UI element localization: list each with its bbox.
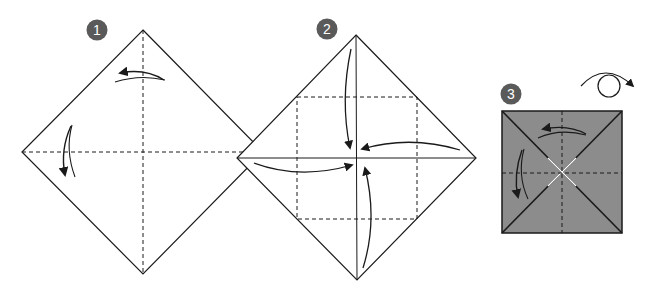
step-1: 1 — [22, 20, 263, 275]
step-3: 3 — [501, 73, 634, 233]
origami-diagram: 1 2 3 — [0, 0, 659, 303]
step-badge: 3 — [501, 84, 522, 105]
step-2: 2 — [237, 19, 476, 281]
svg-text:1: 1 — [93, 22, 101, 38]
turn-over-icon — [581, 73, 633, 97]
step-badge: 2 — [317, 19, 338, 40]
svg-text:2: 2 — [323, 21, 331, 37]
step-badge: 1 — [87, 20, 108, 41]
svg-text:3: 3 — [507, 86, 515, 102]
